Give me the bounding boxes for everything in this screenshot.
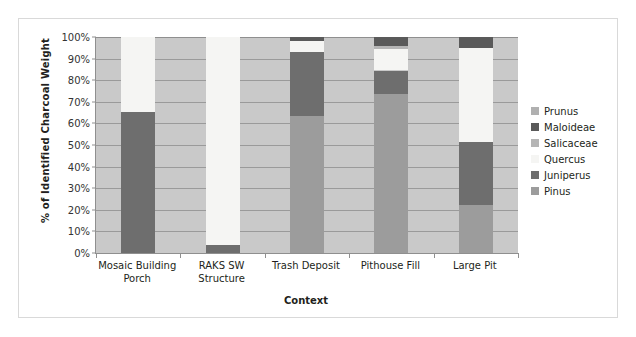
- bar-segment-juniperus[interactable]: [459, 142, 493, 206]
- legend-swatch-icon: [531, 155, 539, 163]
- stacked-bar[interactable]: [121, 37, 155, 253]
- legend-swatch-icon: [531, 187, 539, 195]
- bar-segment-maloideae[interactable]: [459, 37, 493, 48]
- x-tick-mark: [96, 253, 97, 258]
- legend-item-salicaceae[interactable]: Salicaceae: [531, 135, 617, 151]
- x-tick-label-line: Porch: [95, 272, 179, 285]
- y-tick-label: 60%: [68, 118, 90, 129]
- legend-label: Quercus: [544, 154, 585, 165]
- bar-segment-quercus[interactable]: [121, 37, 155, 112]
- y-tick-label: 100%: [61, 32, 90, 43]
- x-tick-label: RAKS SWStructure: [179, 259, 263, 285]
- x-tick-label-line: Mosaic Building: [95, 259, 179, 272]
- y-tick-label: 0%: [74, 248, 90, 259]
- bar-segment-salicaceae[interactable]: [374, 46, 408, 49]
- legend-label: Pinus: [544, 186, 570, 197]
- x-tick-label: Large Pit: [433, 259, 517, 272]
- bar-segment-quercus[interactable]: [459, 48, 493, 142]
- x-tick-label: Pithouse Fill: [348, 259, 432, 272]
- plot-area: 100%90%80%70%60%50%40%30%20%10%0%: [95, 37, 518, 254]
- x-tick-label-line: RAKS SW: [179, 259, 263, 272]
- x-tick-mark: [518, 253, 519, 258]
- bar-segment-juniperus[interactable]: [374, 71, 408, 95]
- x-tick-mark: [349, 253, 350, 258]
- bar-segment-pinus[interactable]: [290, 116, 324, 253]
- x-tick-label-line: Pithouse Fill: [348, 259, 432, 272]
- legend-item-maloideae[interactable]: Maloideae: [531, 119, 617, 135]
- bar-group[interactable]: [349, 37, 433, 253]
- legend-label: Prunus: [544, 106, 578, 117]
- legend-swatch-icon: [531, 139, 539, 147]
- bar-group[interactable]: [265, 37, 349, 253]
- x-tick-label-line: Large Pit: [433, 259, 517, 272]
- bar-group[interactable]: [180, 37, 264, 253]
- x-tick-mark: [434, 253, 435, 258]
- bar-segment-juniperus[interactable]: [290, 52, 324, 116]
- bar-segment-quercus[interactable]: [206, 37, 240, 245]
- bar-segment-pinus[interactable]: [459, 205, 493, 253]
- x-tick-mark: [265, 253, 266, 258]
- bar-group[interactable]: [434, 37, 518, 253]
- chart-figure: % of Identified Charcoal Weight 100%90%8…: [18, 18, 618, 318]
- bar-segment-maloideae[interactable]: [290, 37, 324, 41]
- bar-segment-maloideae[interactable]: [374, 37, 408, 46]
- legend-label: Juniperus: [544, 170, 591, 181]
- bar-segment-pinus[interactable]: [374, 94, 408, 253]
- legend-item-quercus[interactable]: Quercus: [531, 151, 617, 167]
- bar-segment-quercus[interactable]: [374, 49, 408, 71]
- legend-label: Salicaceae: [544, 138, 598, 149]
- x-axis-title: Context: [95, 295, 517, 306]
- x-tick-label-line: Structure: [179, 272, 263, 285]
- y-tick-label: 10%: [68, 226, 90, 237]
- legend-item-juniperus[interactable]: Juniperus: [531, 167, 617, 183]
- stacked-bar[interactable]: [206, 37, 240, 253]
- stacked-bar[interactable]: [374, 37, 408, 253]
- x-tick-label-line: Trash Deposit: [264, 259, 348, 272]
- legend-swatch-icon: [531, 107, 539, 115]
- bar-segment-juniperus[interactable]: [121, 112, 155, 253]
- stacked-bar[interactable]: [459, 37, 493, 253]
- legend-swatch-icon: [531, 123, 539, 131]
- bar-segment-quercus[interactable]: [290, 41, 324, 52]
- bar-segment-juniperus[interactable]: [206, 245, 240, 253]
- stacked-bar[interactable]: [290, 37, 324, 253]
- y-tick-label: 70%: [68, 96, 90, 107]
- y-tick-label: 80%: [68, 75, 90, 86]
- x-tick-label: Trash Deposit: [264, 259, 348, 272]
- y-tick-label: 20%: [68, 204, 90, 215]
- y-tick-label: 50%: [68, 140, 90, 151]
- y-tick-label: 90%: [68, 53, 90, 64]
- y-axis-title: % of Identified Charcoal Weight: [40, 21, 51, 241]
- legend-item-pinus[interactable]: Pinus: [531, 183, 617, 199]
- x-tick-mark: [180, 253, 181, 258]
- legend-label: Maloideae: [544, 122, 595, 133]
- chart-legend: PrunusMaloideaeSalicaceaeQuercusJuniperu…: [531, 103, 617, 199]
- legend-swatch-icon: [531, 171, 539, 179]
- bar-group[interactable]: [96, 37, 180, 253]
- y-tick-label: 40%: [68, 161, 90, 172]
- legend-item-prunus[interactable]: Prunus: [531, 103, 617, 119]
- y-tick-label: 30%: [68, 183, 90, 194]
- x-tick-label: Mosaic BuildingPorch: [95, 259, 179, 285]
